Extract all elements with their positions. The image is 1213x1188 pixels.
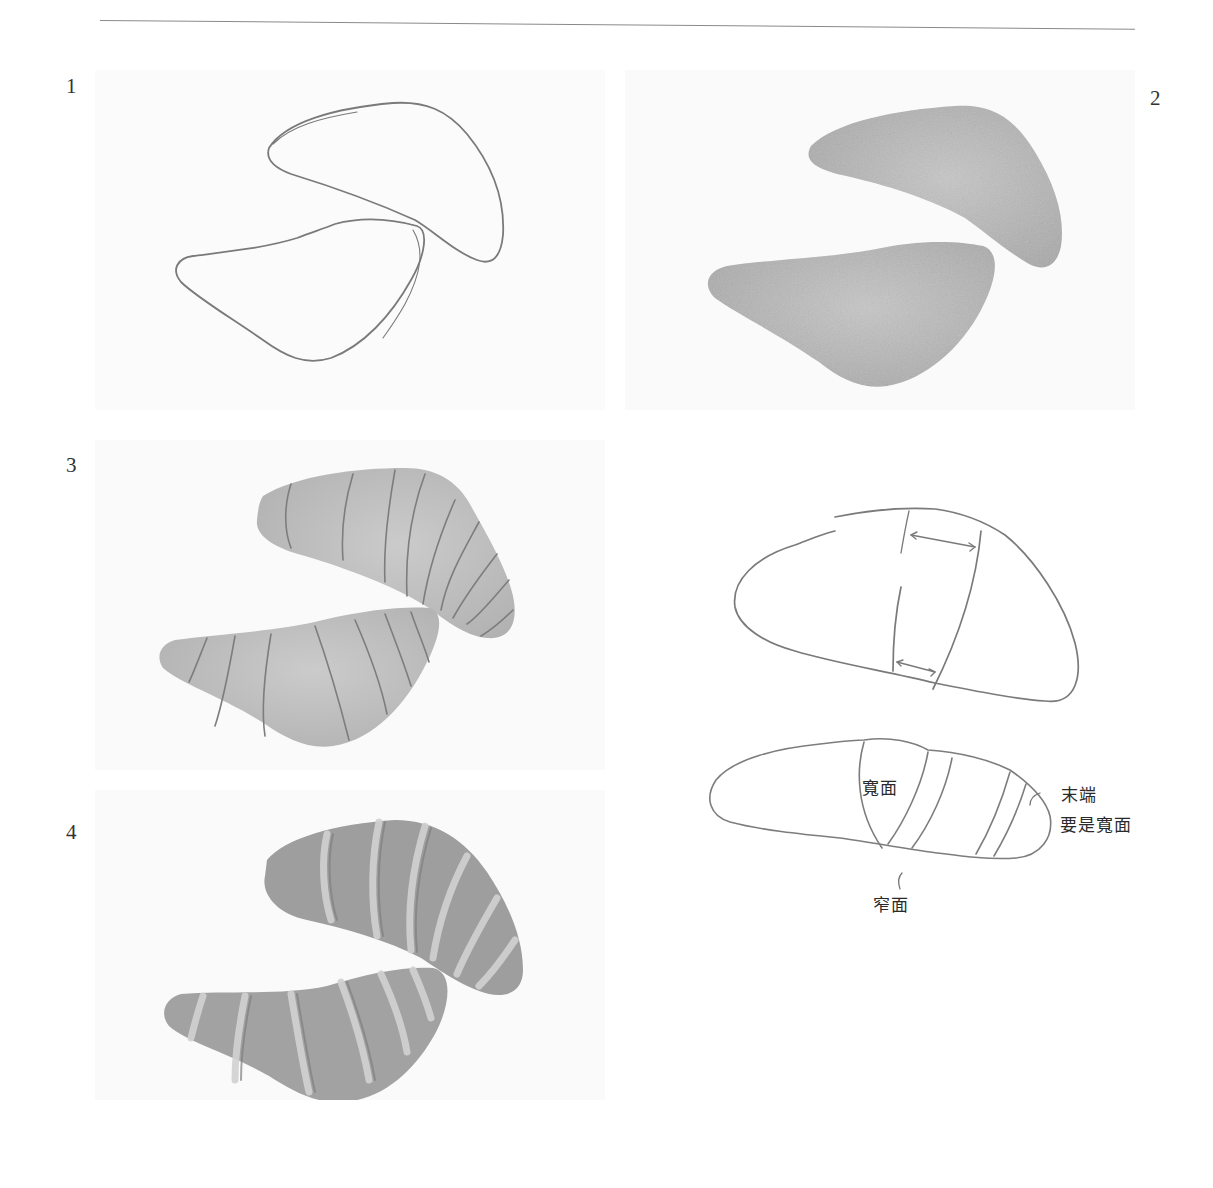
step-3-segment-lines-illustration [95, 440, 605, 770]
label-tip-note: 要是寬面 [1060, 817, 1132, 834]
step-number-4: 4 [66, 822, 77, 843]
step-2-shaded-illustration [625, 70, 1135, 410]
step-number-1: 1 [66, 76, 77, 97]
diagram-segment-width-sketch [725, 495, 1095, 715]
annotation-leader-lines [880, 785, 1060, 895]
step-1-outline-illustration [95, 70, 605, 410]
step-number-3: 3 [66, 455, 77, 476]
step-4-finished-illustration [95, 790, 605, 1100]
top-divider-rule [100, 20, 1135, 30]
step-number-2: 2 [1150, 88, 1161, 109]
label-tip: 末端 [1061, 787, 1097, 804]
label-narrow-face: 窄面 [873, 897, 909, 914]
label-wide-face: 寬面 [862, 780, 898, 797]
